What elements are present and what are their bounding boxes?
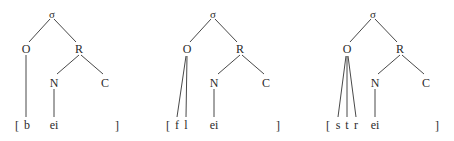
syllable-tree-2: σ O R N C [ f l ei ] — [166, 8, 280, 133]
syllable-structure-diagram: σ O R N C [ b ei ] σ O R N C [ f l ei ] — [0, 0, 454, 141]
edge-sigma-onset — [190, 19, 211, 42]
edge-rime-coda — [81, 55, 103, 74]
segment-s: s — [336, 118, 341, 132]
edge-onset-f — [177, 56, 186, 117]
syllable-tree-3: σ O R N C [ s t r ei ] — [326, 8, 439, 133]
segment-r: r — [354, 118, 358, 132]
node-onset: O — [22, 42, 31, 56]
node-coda: C — [101, 76, 109, 90]
node-coda: C — [262, 76, 270, 90]
edge-rime-nucleus — [378, 55, 400, 74]
node-nucleus: N — [371, 76, 380, 90]
node-syllable: σ — [49, 8, 55, 20]
node-rime: R — [75, 42, 83, 56]
node-coda: C — [422, 76, 430, 90]
segment-ei: ei — [210, 118, 219, 132]
edge-onset-l — [186, 56, 187, 117]
edge-sigma-rime — [54, 19, 76, 42]
edge-sigma-rime — [375, 19, 397, 42]
edge-rime-nucleus — [57, 55, 79, 74]
segment-f: f — [175, 118, 179, 132]
segment-b: b — [24, 118, 30, 132]
edge-onset-s — [338, 56, 346, 117]
node-rime: R — [396, 42, 404, 56]
node-rime: R — [236, 42, 244, 56]
node-onset: O — [343, 42, 352, 56]
open-bracket: [ — [166, 119, 170, 133]
segment-l: l — [184, 118, 188, 132]
edge-rime-coda — [402, 55, 424, 74]
segment-t: t — [345, 118, 349, 132]
node-syllable: σ — [370, 8, 376, 20]
close-bracket: ] — [115, 119, 119, 133]
edge-sigma-rime — [215, 19, 237, 42]
syllable-tree-1: σ O R N C [ b ei ] — [15, 8, 119, 133]
edge-sigma-onset — [29, 19, 50, 42]
segment-ei: ei — [50, 118, 59, 132]
node-nucleus: N — [210, 76, 219, 90]
segment-ei: ei — [371, 118, 380, 132]
node-syllable: σ — [210, 8, 216, 20]
edge-rime-coda — [242, 55, 264, 74]
edge-sigma-onset — [350, 19, 371, 42]
close-bracket: ] — [435, 119, 439, 133]
node-nucleus: N — [50, 76, 59, 90]
edge-rime-nucleus — [218, 55, 240, 74]
close-bracket: ] — [276, 119, 280, 133]
node-onset: O — [183, 42, 192, 56]
edge-onset-r — [348, 56, 356, 117]
open-bracket: [ — [326, 119, 330, 133]
open-bracket: [ — [15, 119, 19, 133]
